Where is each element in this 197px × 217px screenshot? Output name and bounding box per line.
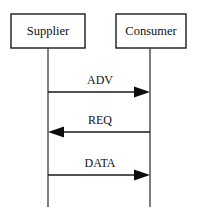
message-data[interactable]: DATA xyxy=(48,156,150,181)
participant-consumer[interactable]: Consumer xyxy=(116,14,186,48)
arrowhead-right-adv-icon xyxy=(134,87,150,98)
arrowhead-left-req-icon xyxy=(48,127,64,138)
message-label-data: DATA xyxy=(84,156,115,170)
sequence-diagram-svg: Supplier Consumer ADV REQ DATA xyxy=(0,0,197,217)
message-label-req: REQ xyxy=(88,113,112,127)
participant-supplier[interactable]: Supplier xyxy=(11,14,85,48)
message-req[interactable]: REQ xyxy=(48,113,150,138)
sequence-diagram-canvas: Supplier Consumer ADV REQ DATA xyxy=(0,0,197,217)
message-label-adv: ADV xyxy=(87,73,113,87)
participant-label-supplier: Supplier xyxy=(27,24,70,38)
message-adv[interactable]: ADV xyxy=(48,73,150,98)
arrowhead-right-data-icon xyxy=(134,170,150,181)
participant-label-consumer: Consumer xyxy=(125,24,177,38)
